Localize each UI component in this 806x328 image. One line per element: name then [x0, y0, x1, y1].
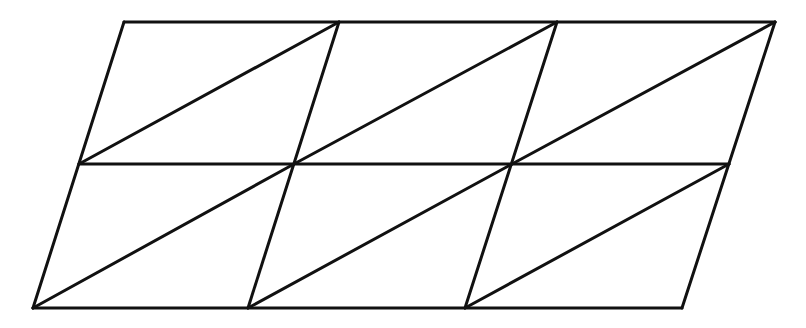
parallelogram-grid-diagram	[0, 0, 806, 328]
diagram-lines	[33, 22, 775, 308]
